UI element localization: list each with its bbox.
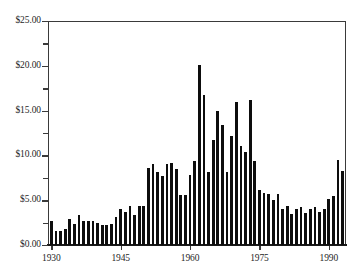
bar	[175, 169, 178, 245]
bar	[253, 161, 256, 245]
bar	[129, 206, 132, 245]
bar	[55, 231, 58, 245]
x-axis-tick	[329, 246, 330, 250]
bar	[337, 160, 340, 245]
bar	[318, 212, 321, 245]
bar	[96, 223, 99, 245]
bar	[161, 176, 164, 245]
bar	[216, 111, 219, 245]
bar	[92, 221, 95, 245]
y-axis-tick-major	[42, 155, 48, 156]
bar	[101, 225, 104, 245]
bar	[332, 196, 335, 245]
bar	[327, 199, 330, 245]
bar	[193, 161, 196, 245]
bar	[341, 171, 344, 245]
bar	[263, 193, 266, 245]
bar	[87, 221, 90, 245]
bar	[105, 225, 108, 245]
y-axis-tick-minor	[43, 133, 48, 134]
bar	[147, 168, 150, 245]
bar	[198, 65, 201, 245]
bar	[277, 194, 280, 245]
bar	[203, 95, 206, 245]
bar	[304, 213, 307, 245]
bar	[170, 163, 173, 245]
y-axis-tick-major	[42, 245, 48, 246]
bar	[267, 194, 270, 245]
bar	[152, 164, 155, 245]
bar	[189, 175, 192, 245]
bar	[207, 172, 210, 245]
bar	[138, 206, 141, 245]
y-axis-tick-minor	[43, 223, 48, 224]
y-axis-tick-major	[42, 111, 48, 112]
bar	[78, 215, 81, 245]
bar	[249, 100, 252, 245]
bar	[314, 207, 317, 245]
x-axis-tick	[121, 246, 122, 250]
y-axis-tick-label: $15.00	[1, 106, 41, 116]
y-axis-tick-major	[42, 200, 48, 201]
bar	[184, 195, 187, 245]
x-axis-tick	[51, 246, 52, 250]
bar	[64, 229, 67, 245]
y-axis-tick-minor	[43, 178, 48, 179]
bar	[212, 140, 215, 245]
y-axis-tick-label: $5.00	[1, 195, 41, 205]
bar	[309, 209, 312, 245]
x-axis-tick-label: 1975	[237, 253, 281, 264]
y-axis-tick-label: $20.00	[1, 61, 41, 71]
bar	[110, 224, 113, 246]
bar	[300, 207, 303, 245]
bar	[240, 146, 243, 245]
y-axis-labels: $0.00$5.00$10.00$15.00$20.00$25.00	[0, 0, 41, 280]
x-axis-tick-label: 1945	[99, 253, 143, 264]
x-axis-tick-label: 1960	[168, 253, 212, 264]
y-axis-tick-label: $0.00	[1, 240, 41, 250]
bar	[235, 102, 238, 245]
bar	[119, 209, 122, 245]
bar	[226, 172, 229, 245]
bar-chart-figure: $0.00$5.00$10.00$15.00$20.00$25.00 19301…	[0, 0, 360, 280]
y-axis-tick-major	[42, 21, 48, 22]
y-axis-tick-label: $25.00	[1, 16, 41, 26]
x-axis-tick	[190, 246, 191, 250]
bar	[221, 125, 224, 245]
bar	[115, 217, 118, 245]
bar	[73, 224, 76, 246]
bar	[124, 212, 127, 245]
bar	[286, 206, 289, 245]
bar	[244, 152, 247, 245]
bar	[59, 231, 62, 245]
bar	[295, 209, 298, 245]
bar	[133, 215, 136, 245]
bar	[290, 214, 293, 245]
bar	[230, 136, 233, 245]
bar	[179, 195, 182, 245]
y-axis-tick-label: $10.00	[1, 150, 41, 160]
bar	[272, 200, 275, 245]
bar-series	[49, 21, 345, 245]
bar	[50, 221, 53, 245]
bar	[281, 209, 284, 245]
bar	[68, 219, 71, 245]
x-axis-tick-label: 1990	[307, 253, 351, 264]
bar	[82, 221, 85, 245]
bar	[166, 164, 169, 245]
y-axis-tick-major	[42, 66, 48, 67]
bar	[142, 206, 145, 245]
y-axis-tick-minor	[43, 88, 48, 89]
y-axis-tick-minor	[43, 43, 48, 44]
bar	[323, 209, 326, 245]
bar	[258, 190, 261, 245]
x-axis-tick-label: 1930	[29, 253, 73, 264]
bar	[156, 172, 159, 245]
x-axis-tick	[259, 246, 260, 250]
